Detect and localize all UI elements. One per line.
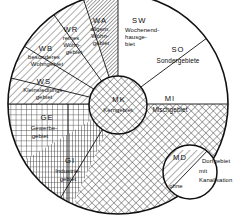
sw-name-3: biet <box>125 41 135 47</box>
wr-code: WR <box>64 25 79 34</box>
md-name-1: Dorfgebiet <box>202 158 230 164</box>
sw-name-1: Wochenend- <box>125 27 159 33</box>
wb-name-1: besonderes <box>28 54 60 60</box>
sw-name-2: hausge- <box>125 34 147 40</box>
wa-name-2: Wohn- <box>91 33 109 39</box>
gi-name-1: Industrie- <box>55 168 81 174</box>
wa-name-3: gebiet <box>93 40 110 46</box>
sw-code: SW <box>132 16 146 25</box>
so-code: SO <box>171 45 184 54</box>
mk-code: MK <box>112 95 126 104</box>
ge-name-2: gebiet <box>32 133 49 139</box>
wr-name-3: gebiet <box>66 49 83 55</box>
baugebiete-circular-diagram: WS Kleinsiedlungs- gebiet WB besonderes … <box>0 0 243 215</box>
md-name-3: Kanalisation <box>199 177 232 183</box>
wa-name-1: allgem. <box>90 26 110 32</box>
ws-code: WS <box>37 77 51 86</box>
gi-code: GI <box>65 156 75 165</box>
wb-name-2: Wohngebiet <box>31 61 64 67</box>
gi-name-2: gebiet <box>60 176 77 182</box>
wb-code: WB <box>39 44 53 53</box>
ws-name-1: Kleinsiedlungs- <box>23 87 64 93</box>
mi-name-1: Mischgebiet <box>152 106 187 114</box>
mk-name-1: Kerngebiet <box>103 107 133 113</box>
wr-name-1: reines <box>63 35 80 41</box>
md-name-4: ohne <box>169 183 183 189</box>
ge-code: GE <box>40 113 53 122</box>
mi-code: MI <box>165 94 176 103</box>
diagram-canvas: WS Kleinsiedlungs- gebiet WB besonderes … <box>0 0 243 215</box>
wa-code: WA <box>93 16 107 25</box>
md-code: MD <box>173 153 187 162</box>
so-name-1: Sondergebiete <box>157 57 200 65</box>
ge-name-1: Gewerbe- <box>31 125 58 131</box>
ws-name-2: gebiet <box>36 94 53 100</box>
md-name-2: mit <box>199 168 207 174</box>
wr-name-2: Wohn- <box>63 42 81 48</box>
